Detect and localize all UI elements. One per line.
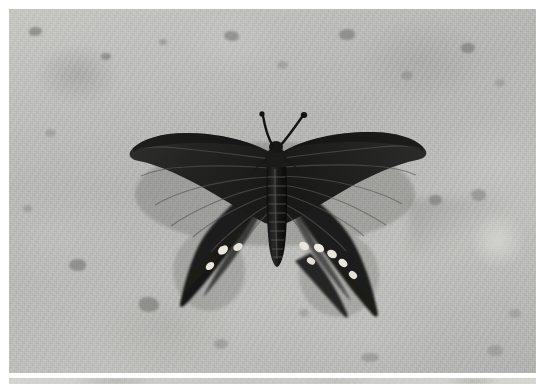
pebble [101,53,111,60]
pebble [487,345,503,356]
pebble [299,309,309,317]
main-photo[interactable] [9,9,536,373]
pebble [495,79,505,87]
pebble [401,71,413,80]
next-photo-strip[interactable] [9,378,536,384]
pebble [361,353,379,362]
pebble [69,259,86,271]
next-photo-grain [9,378,536,384]
photo-page [0,0,544,384]
pebble [45,129,56,137]
ground-speckle-texture [9,9,536,373]
pebble [339,29,355,40]
pebble [224,31,239,41]
pebble [23,205,32,212]
ground-shadow-streak [409,199,499,255]
pebble [139,297,159,312]
pebble [214,339,228,349]
pebble [509,309,521,318]
pebble [159,39,167,45]
pebble [277,61,288,69]
